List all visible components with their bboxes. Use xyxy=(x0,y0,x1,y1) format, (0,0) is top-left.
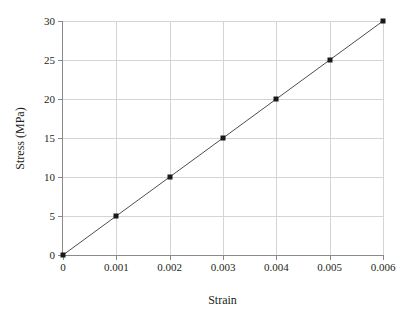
y-tick-label: 30 xyxy=(44,16,55,27)
y-tick-label: 5 xyxy=(50,210,56,221)
y-axis-title: Stress (MPa) xyxy=(14,21,30,256)
data-point-marker xyxy=(167,174,172,179)
data-point-marker xyxy=(274,96,279,101)
x-tick-label: 0.001 xyxy=(104,262,129,273)
data-point-marker xyxy=(327,57,332,62)
plot-area: 0 5 10 15 20 25 30 0 0.001 0.002 0.003 0… xyxy=(62,21,383,256)
y-tick-label: 15 xyxy=(44,133,55,144)
x-tick-label: 0 xyxy=(60,262,66,273)
x-tick xyxy=(330,255,331,260)
x-tick-label: 0.006 xyxy=(371,262,396,273)
data-point-marker xyxy=(114,214,119,219)
gridline-vertical xyxy=(383,21,384,255)
x-tick-label: 0.004 xyxy=(264,262,289,273)
data-point-marker xyxy=(61,253,66,258)
x-tick xyxy=(276,255,277,260)
y-tick-label: 10 xyxy=(44,172,55,183)
chart-figure: 0 5 10 15 20 25 30 0 0.001 0.002 0.003 0… xyxy=(0,0,416,321)
data-point-marker xyxy=(381,19,386,24)
x-tick-label: 0.003 xyxy=(211,262,236,273)
data-point-marker xyxy=(221,136,226,141)
x-tick xyxy=(383,255,384,260)
x-tick xyxy=(170,255,171,260)
x-tick-label: 0.002 xyxy=(157,262,182,273)
x-tick-label: 0.005 xyxy=(317,262,342,273)
x-tick xyxy=(223,255,224,260)
y-tick-label: 0 xyxy=(50,250,56,261)
y-tick-label: 25 xyxy=(44,55,55,66)
y-tick-label: 20 xyxy=(44,93,55,104)
x-tick xyxy=(116,255,117,260)
x-axis-title: Strain xyxy=(62,294,383,306)
